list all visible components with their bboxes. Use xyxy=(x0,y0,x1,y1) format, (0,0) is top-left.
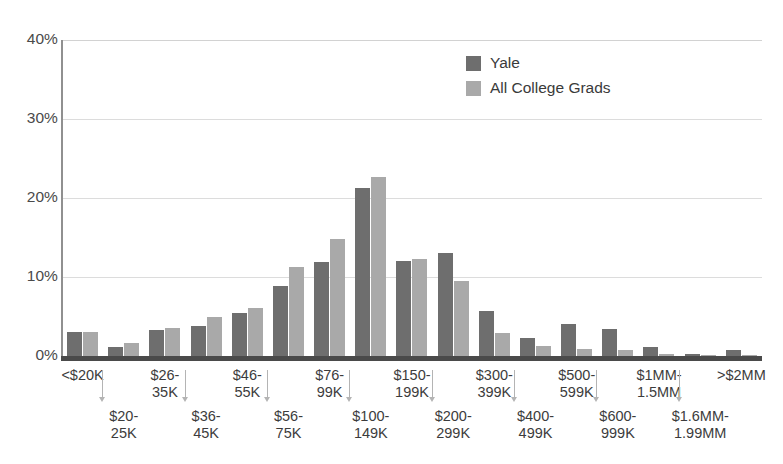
legend-item-yale: Yale xyxy=(466,52,611,74)
bar-all-college-grads xyxy=(577,349,592,356)
bar-yale xyxy=(685,354,700,356)
bar-yale xyxy=(520,338,535,356)
bar-yale xyxy=(232,313,247,356)
x-tick-label: $46-55K xyxy=(211,367,283,401)
y-tick-label: 20% xyxy=(6,188,58,206)
bar-yale xyxy=(561,324,576,356)
y-tick-label: 10% xyxy=(6,267,58,285)
bar-all-college-grads xyxy=(618,350,633,356)
bar-series-container xyxy=(62,40,762,356)
bar-group xyxy=(232,40,265,356)
bar-yale xyxy=(643,347,658,356)
x-tick-label: <$20K xyxy=(47,367,119,384)
bar-group xyxy=(685,40,718,356)
bar-yale xyxy=(355,188,370,356)
bar-group xyxy=(149,40,182,356)
bar-all-college-grads xyxy=(165,328,180,356)
x-tick-label: $300-399K xyxy=(458,367,530,401)
x-axis-labels: <$20K$20-25K$26-35K$36-45K$46-55K$56-75K… xyxy=(0,362,783,464)
bar-all-college-grads xyxy=(412,259,427,356)
x-tick-label: $150-199K xyxy=(376,367,448,401)
bar-yale xyxy=(602,329,617,356)
legend-label-all-college-grads: All College Grads xyxy=(490,79,611,97)
bar-group xyxy=(396,40,429,356)
bar-yale xyxy=(314,262,329,356)
bar-group xyxy=(643,40,676,356)
bar-yale xyxy=(108,347,123,356)
bar-yale xyxy=(479,311,494,356)
bar-group xyxy=(67,40,100,356)
bar-all-college-grads xyxy=(454,281,469,356)
bar-all-college-grads xyxy=(289,267,304,356)
x-tick-label: $56-75K xyxy=(252,408,324,442)
bar-all-college-grads xyxy=(495,333,510,356)
bar-yale xyxy=(396,261,411,356)
income-distribution-bar-chart: 0%10%20%30%40% Yale All College Grads <$… xyxy=(0,0,783,464)
legend-item-all-college-grads: All College Grads xyxy=(466,77,611,99)
x-tick-label: $1MM-1.5MM xyxy=(623,367,695,401)
y-tick-label: 30% xyxy=(6,109,58,127)
chart-legend: Yale All College Grads xyxy=(466,52,611,102)
bar-all-college-grads xyxy=(248,308,263,356)
x-tick-label: $100-149K xyxy=(335,408,407,442)
bar-group xyxy=(355,40,388,356)
bar-group xyxy=(726,40,759,356)
bar-all-college-grads xyxy=(207,317,222,356)
bar-all-college-grads xyxy=(659,354,674,356)
bar-all-college-grads xyxy=(330,239,345,356)
x-tick-label: $600-999K xyxy=(582,408,654,442)
bar-all-college-grads xyxy=(124,343,139,356)
x-tick-label: $36-45K xyxy=(170,408,242,442)
x-tick-label: $1.6MM-1.99MM xyxy=(664,408,736,442)
bar-yale xyxy=(726,350,741,356)
x-tick-label: $20-25K xyxy=(88,408,160,442)
x-tick-label: $500-599K xyxy=(541,367,613,401)
bar-all-college-grads xyxy=(701,355,716,357)
bar-group xyxy=(108,40,141,356)
x-axis-baseline xyxy=(61,356,762,361)
x-tick-label: $76-99K xyxy=(294,367,366,401)
x-tick-label: >$2MM xyxy=(705,367,777,384)
bar-yale xyxy=(67,332,82,356)
legend-swatch-icon-yale xyxy=(466,56,481,71)
bar-group xyxy=(191,40,224,356)
bar-yale xyxy=(273,286,288,356)
bar-all-college-grads xyxy=(371,177,386,356)
legend-swatch-icon-all-college-grads xyxy=(466,81,481,96)
bar-group xyxy=(273,40,306,356)
bar-group xyxy=(314,40,347,356)
legend-label-yale: Yale xyxy=(490,54,520,72)
x-tick-label: $26-35K xyxy=(129,367,201,401)
bar-yale xyxy=(149,330,164,356)
y-tick-label: 40% xyxy=(6,30,58,48)
bar-all-college-grads xyxy=(83,332,98,356)
bar-all-college-grads xyxy=(742,355,757,357)
bar-all-college-grads xyxy=(536,346,551,356)
bar-yale xyxy=(191,326,206,356)
x-tick-label: $200-299K xyxy=(417,408,489,442)
bar-yale xyxy=(438,253,453,356)
x-tick-label: $400-499K xyxy=(500,408,572,442)
